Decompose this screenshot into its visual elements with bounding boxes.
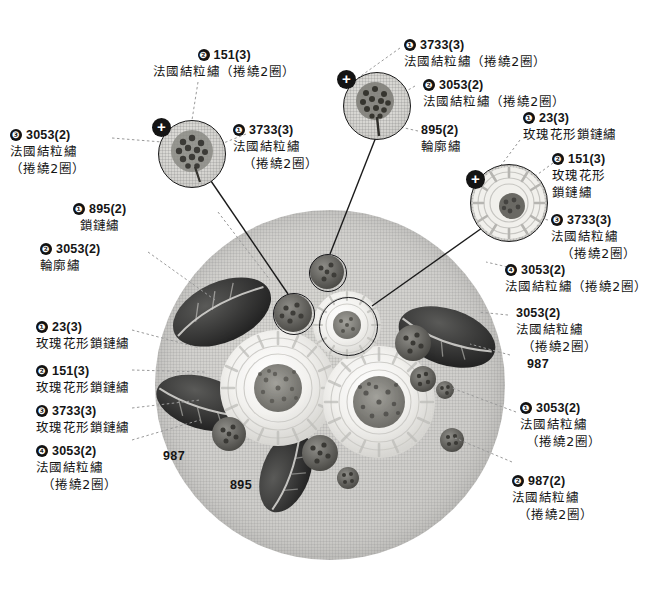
bullet-3: ❸ xyxy=(36,405,48,417)
stitch-desc: 法國結粒繡 xyxy=(233,139,318,156)
plus-icon-left: + xyxy=(152,118,171,137)
thread-code: 23(3) xyxy=(52,320,82,334)
label-left-3053-knot-top: ❸3053(2) 法國結粒繡 （捲繞2圈） xyxy=(10,127,85,177)
stitch-desc: 法國結粒繡（捲繞2圈） xyxy=(153,64,295,81)
bullet-4: ❹ xyxy=(505,264,517,276)
stitch-desc: 輪廓繡 xyxy=(421,139,461,156)
stitch-desc: 法國結粒繡 xyxy=(520,417,601,434)
thread-code: 895(2) xyxy=(421,122,461,139)
bullet-1: ❶ xyxy=(233,124,245,136)
label-right-987-plain: 987 xyxy=(527,357,549,371)
thread-code: 3053(2) xyxy=(56,242,101,256)
bullet-1: ❶ xyxy=(520,402,532,414)
stitch-desc: 輪廓繡 xyxy=(40,258,101,275)
label-top-right-3053: ❷3053(2) 法國結粒繡（捲繞2圈） xyxy=(423,77,565,111)
label-left-23: ❶23(3) 玫瑰花形鎖鏈繡 xyxy=(36,319,130,353)
bullet-1: ❶ xyxy=(36,321,48,333)
stitch-desc-2: 鎖鏈繡 xyxy=(552,185,606,202)
fabric-mark-987: 987 xyxy=(163,449,185,463)
thread-code: 895(2) xyxy=(89,202,126,216)
bullet-1: ❶ xyxy=(73,203,85,215)
stitch-desc-2: （捲繞2圈） xyxy=(516,339,597,356)
stitch-desc: 法國結粒繡 xyxy=(36,460,117,477)
stitch-desc-2: （捲繞2圈） xyxy=(520,434,601,451)
stitch-desc: 法國結粒繡 xyxy=(10,144,85,161)
thread-code: 3053(2) xyxy=(516,305,597,322)
label-right-23: ❶23(3) 玫瑰花形鎖鏈繡 xyxy=(523,110,617,144)
bullet-4: ❹ xyxy=(36,445,48,457)
bullet-1: ❶ xyxy=(404,39,416,51)
stitch-desc: 玫瑰花形鎖鏈繡 xyxy=(36,420,130,437)
bullet-3: ❸ xyxy=(10,129,22,141)
target-ring-flower-mid xyxy=(319,297,378,356)
embroidery-diagram-page: + + xyxy=(0,0,655,589)
label-right-3053-4: ❹3053(2) 法國結粒繡（捲繞2圈） xyxy=(505,262,647,296)
thread-code: 3733(3) xyxy=(52,404,97,418)
label-right-3733: ❸3733(3) 法國結粒繡 （捲繞2圈） xyxy=(551,212,636,262)
stitch-desc: 法國結粒繡 xyxy=(516,322,597,339)
fabric-mark-895: 895 xyxy=(230,478,252,492)
plus-icon-top: + xyxy=(337,70,356,89)
stitch-desc-2: （捲繞2圈） xyxy=(551,246,636,263)
thread-code: 3733(3) xyxy=(249,123,294,137)
bullet-2: ❷ xyxy=(512,475,524,487)
label-left-895-chain: ❶895(2) 鎖鏈繡 xyxy=(73,201,126,235)
stitch-desc: 法國結粒繡（捲繞2圈） xyxy=(423,94,565,111)
label-right-3053-plain: 3053(2) 法國結粒繡 （捲繞2圈） xyxy=(516,305,597,355)
target-ring-bud-top xyxy=(309,254,347,292)
stitch-desc-2: （捲繞2圈） xyxy=(512,507,593,524)
bullet-2: ❷ xyxy=(423,79,435,91)
thread-code: 151(3) xyxy=(568,152,605,166)
stitch-desc: 法國結粒繡（捲繞2圈） xyxy=(404,54,546,71)
thread-code: 3733(3) xyxy=(420,38,465,52)
stitch-desc-2: （捲繞2圈） xyxy=(36,477,117,494)
thread-code: 987(2) xyxy=(528,474,565,488)
target-ring-bud-left xyxy=(273,293,315,335)
thread-code: 3053(2) xyxy=(521,263,566,277)
label-left-3733: ❸3733(3) 玫瑰花形鎖鏈繡 xyxy=(36,403,130,437)
thread-code: 23(3) xyxy=(539,111,569,125)
stitch-desc: 法國結粒繡 xyxy=(551,229,636,246)
stitch-desc: 鎖鏈繡 xyxy=(73,218,126,235)
thread-code: 3733(3) xyxy=(567,213,612,227)
bullet-3: ❸ xyxy=(551,214,563,226)
thread-code: 151(3) xyxy=(52,364,89,378)
stitch-desc: 玫瑰花形鎖鏈繡 xyxy=(36,336,130,353)
label-right-lower-987: ❷987(2) 法國結粒繡 （捲繞2圈） xyxy=(512,473,593,523)
thread-code: 151(3) xyxy=(214,48,251,62)
stitch-desc: 玫瑰花形鎖鏈繡 xyxy=(523,127,617,144)
label-mid-895-outline: 895(2) 輪廓繡 xyxy=(421,122,461,156)
label-top-right-3733: ❶3733(3) 法國結粒繡（捲繞2圈） xyxy=(404,37,546,71)
label-upper-mid-3733: ❶3733(3) 法國結粒繡 （捲繞2圈） xyxy=(233,122,318,172)
bullet-2: ❷ xyxy=(36,365,48,377)
stitch-desc: 法國結粒繡 xyxy=(512,490,593,507)
thread-code: 3053(2) xyxy=(536,401,581,415)
thread-code: 3053(2) xyxy=(26,128,71,142)
label-left-3053-outline: ❷3053(2) 輪廓繡 xyxy=(40,241,101,275)
stitch-desc: 法國結粒繡（捲繞2圈） xyxy=(505,279,647,296)
stitch-desc-2: （捲繞2圈） xyxy=(233,156,318,173)
label-top-left-151: ❷151(3) 法國結粒繡（捲繞2圈） xyxy=(153,47,295,81)
label-right-lower-3053: ❶3053(2) 法國結粒繡 （捲繞2圈） xyxy=(520,400,601,450)
label-left-151: ❷151(3) 玫瑰花形鎖鏈繡 xyxy=(36,363,130,397)
bullet-2: ❷ xyxy=(552,153,564,165)
thread-code: 3053(2) xyxy=(439,78,484,92)
bullet-2: ❷ xyxy=(198,49,210,61)
stitch-desc: 玫瑰花形 xyxy=(552,168,606,185)
plus-icon-right: + xyxy=(466,170,485,189)
bullet-2: ❷ xyxy=(40,243,52,255)
thread-code: 3053(2) xyxy=(52,444,97,458)
label-right-151: ❷151(3) 玫瑰花形 鎖鏈繡 xyxy=(552,151,606,201)
stitch-desc-2: （捲繞2圈） xyxy=(10,161,85,178)
stitch-desc: 玫瑰花形鎖鏈繡 xyxy=(36,380,130,397)
bullet-1: ❶ xyxy=(523,112,535,124)
label-left-3053-knot: ❹3053(2) 法國結粒繡 （捲繞2圈） xyxy=(36,443,117,493)
